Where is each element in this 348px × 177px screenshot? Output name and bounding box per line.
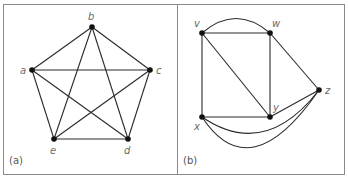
panel-a-label: (a)	[9, 155, 23, 166]
node-x	[199, 114, 205, 120]
panel-a-edges	[32, 27, 150, 139]
node-c	[147, 67, 153, 73]
panel-b-nodes: vwzyx	[193, 18, 331, 132]
edge-x-z-curved	[202, 90, 319, 148]
edge-a-e	[32, 70, 54, 139]
node-label-z: z	[324, 85, 331, 96]
node-label-a: a	[20, 65, 26, 76]
node-label-b: b	[88, 11, 94, 22]
panel-a-nodes: abcde	[20, 11, 162, 156]
node-label-v: v	[194, 18, 201, 29]
panel-a-complete-graph: abcde (a)	[9, 11, 162, 166]
node-e	[51, 136, 57, 142]
node-label-d: d	[124, 145, 131, 156]
node-b	[89, 24, 95, 30]
panel-b-label: (b)	[183, 155, 197, 166]
edge-a-b	[32, 27, 92, 70]
node-d	[125, 136, 131, 142]
node-w	[267, 30, 273, 36]
edge-b-d	[92, 27, 128, 139]
node-label-e: e	[50, 145, 56, 156]
node-v	[199, 30, 205, 36]
node-a	[29, 67, 35, 73]
edge-a-d	[32, 70, 128, 139]
node-label-x: x	[193, 121, 200, 132]
edge-v-y	[202, 33, 270, 117]
node-z	[316, 87, 322, 93]
edge-b-e	[54, 27, 92, 139]
figure: abcde (a) vwzyx (b)	[0, 0, 348, 177]
edge-c-d	[128, 70, 150, 139]
node-label-y: y	[272, 102, 280, 113]
edge-w-z	[270, 33, 319, 90]
panel-b-edges	[202, 19, 319, 148]
edge-x-z-curved	[202, 90, 319, 133]
panel-b-multigraph: vwzyx (b)	[183, 18, 331, 166]
edge-v-w-curved	[202, 19, 270, 34]
node-label-c: c	[156, 65, 162, 76]
edge-b-c	[92, 27, 150, 70]
node-label-w: w	[272, 18, 281, 29]
node-y	[267, 114, 273, 120]
edge-c-e	[54, 70, 150, 139]
